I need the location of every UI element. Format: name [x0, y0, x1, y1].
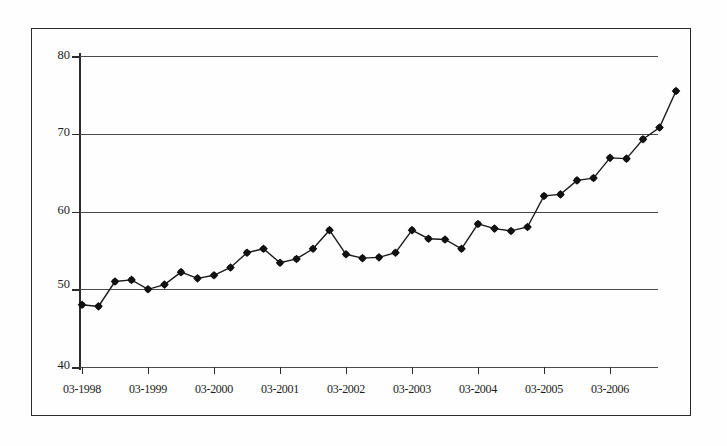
x-tick-03-2004 — [478, 367, 479, 374]
x-tick-label-03-2005: 03-2005 — [509, 382, 579, 397]
y-axis-labels: 80 70 60 50 40 — [36, 0, 70, 446]
x-tick-03-2001 — [280, 367, 281, 374]
y-tick-80 — [72, 56, 80, 58]
x-tick-03-1998 — [82, 367, 83, 374]
x-tick-label-03-1999: 03-1999 — [113, 382, 183, 397]
y-tick-70 — [72, 134, 80, 136]
gridline-y-60 — [79, 212, 658, 213]
y-tick-label-70: 70 — [40, 126, 70, 139]
x-tick-label-03-2000: 03-2000 — [179, 382, 249, 397]
x-tick-label-03-2001: 03-2001 — [245, 382, 315, 397]
x-tick-label-03-2004: 03-2004 — [443, 382, 513, 397]
gridline-y-70 — [79, 134, 658, 135]
x-tick-label-03-2003: 03-2003 — [377, 382, 447, 397]
y-tick-label-50: 50 — [40, 278, 70, 291]
chart-page: 80 70 60 50 40 03-199803-199903-200003-2… — [0, 0, 727, 446]
gridline-y-50 — [79, 289, 658, 290]
y-tick-60 — [72, 212, 80, 214]
x-tick-03-2006 — [610, 367, 611, 374]
x-tick-03-2000 — [214, 367, 215, 374]
gridline-y-40 — [79, 367, 658, 368]
x-tick-03-2003 — [412, 367, 413, 374]
y-tick-40 — [72, 367, 80, 369]
x-tick-03-2005 — [544, 367, 545, 374]
x-tick-label-03-1998: 03-1998 — [47, 382, 117, 397]
x-tick-label-03-2002: 03-2002 — [311, 382, 381, 397]
y-tick-50 — [72, 289, 80, 291]
gridline-y-80 — [79, 56, 658, 57]
x-tick-label-03-2006: 03-2006 — [575, 382, 645, 397]
y-tick-label-40: 40 — [40, 359, 70, 372]
x-tick-03-1999 — [148, 367, 149, 374]
y-tick-label-60: 60 — [40, 204, 70, 217]
y-tick-label-80: 80 — [40, 49, 70, 62]
x-tick-03-2002 — [346, 367, 347, 374]
